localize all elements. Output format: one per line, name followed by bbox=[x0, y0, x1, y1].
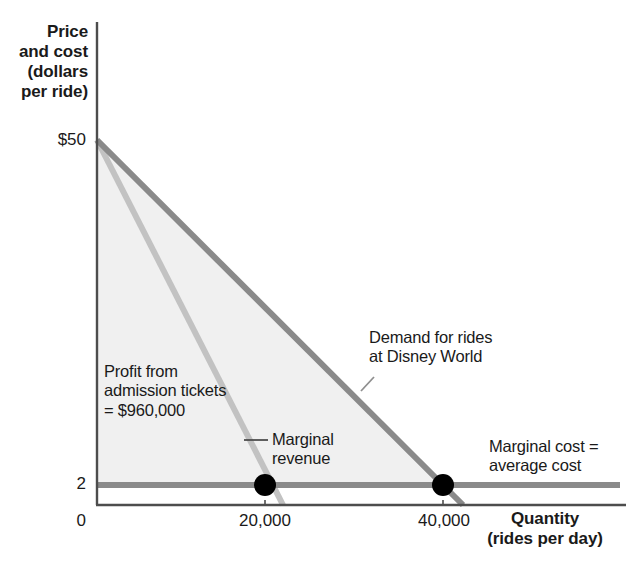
x-axis-title: Quantity(rides per day) bbox=[455, 509, 635, 549]
annotation-marginal-cost: Marginal cost = average cost bbox=[489, 437, 635, 476]
x-axis-title-sub: (rides per day) bbox=[487, 529, 603, 548]
point-demand-equals-marginal-cost bbox=[432, 474, 454, 496]
annotation-demand-for-rides: Demand for rides at Disney World bbox=[369, 328, 569, 367]
disney-world-rides-pricing-chart: Price and cost (dollars per ride) $50 2 … bbox=[0, 0, 635, 568]
x-tick-label-20000: 20,000 bbox=[213, 511, 317, 531]
annotation-profit-from-admission-tickets: Profit from admission tickets = $960,000 bbox=[104, 362, 294, 420]
chart-canvas bbox=[0, 0, 635, 568]
y-tick-label-50: $50 bbox=[34, 130, 86, 150]
x-tick-label-0: 0 bbox=[34, 511, 86, 531]
annotation-marginal-revenue: Marginal revenue bbox=[272, 430, 392, 469]
demand-leader-line bbox=[361, 377, 374, 391]
y-tick-label-2: 2 bbox=[34, 474, 86, 494]
y-axis-title: Price and cost (dollars per ride) bbox=[0, 22, 88, 102]
point-marginal-revenue-equals-marginal-cost bbox=[254, 474, 276, 496]
x-axis-title-main: Quantity bbox=[511, 509, 579, 528]
